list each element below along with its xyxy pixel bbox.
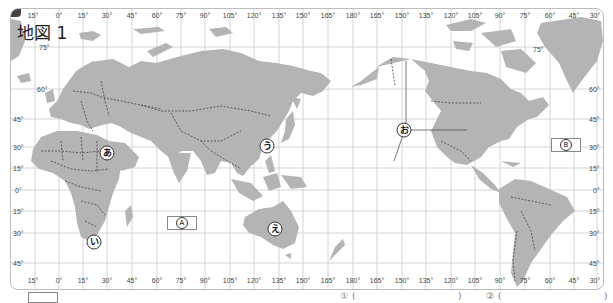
- lon-label: 30°: [590, 277, 601, 284]
- lat-label: 15°: [13, 165, 24, 172]
- marker-u: う: [260, 139, 275, 154]
- lon-label: 60°: [152, 12, 163, 19]
- mark-2: ②: [486, 291, 494, 302]
- lat-label: 60°: [37, 86, 48, 93]
- world-map: 地図 1 15° 0° 15° 30° 45° 60° 75° 90° 105°…: [10, 8, 604, 290]
- lon-label: 30°: [102, 12, 113, 19]
- lon-label: 60°: [152, 277, 163, 284]
- lat-label: 75°: [39, 44, 50, 51]
- lat-label: 75°: [533, 46, 544, 53]
- lon-label: 75°: [176, 277, 187, 284]
- lon-label: 0°: [56, 277, 63, 284]
- lon-label: 165°: [370, 12, 384, 19]
- lon-label: 90°: [200, 12, 211, 19]
- lon-label: 180°: [346, 277, 360, 284]
- ocean-box-a: A: [167, 216, 197, 230]
- ocean-box-b: B: [551, 138, 581, 152]
- lat-label: 45°: [13, 116, 24, 123]
- lon-label: 30°: [590, 12, 601, 19]
- lon-label: 135°: [419, 12, 433, 19]
- lon-label: 120°: [444, 277, 458, 284]
- lon-label: 60°: [545, 12, 556, 19]
- paren-open-2: (: [498, 291, 502, 302]
- lon-label: 105°: [223, 12, 237, 19]
- lat-label: 45°: [589, 260, 600, 267]
- paren-open-1: (: [352, 291, 356, 302]
- lon-label: 75°: [520, 277, 531, 284]
- lon-label: 105°: [468, 12, 482, 19]
- question-strip: ① ( ) ② ( ): [0, 291, 613, 302]
- lat-label: 30°: [589, 230, 600, 237]
- lon-label: 150°: [395, 12, 409, 19]
- ocean-label-b: B: [560, 139, 572, 151]
- lon-label: 165°: [370, 277, 384, 284]
- ocean-label-a: A: [176, 217, 188, 229]
- lon-label: 150°: [395, 277, 409, 284]
- lon-label: 15°: [28, 277, 39, 284]
- lon-label: 135°: [272, 277, 286, 284]
- lat-label: 30°: [589, 144, 600, 151]
- lon-label: 165°: [321, 277, 335, 284]
- lat-label: 45°: [589, 116, 600, 123]
- lat-label: 15°: [589, 165, 600, 172]
- lon-label: 45°: [127, 277, 138, 284]
- lon-label: 120°: [247, 12, 261, 19]
- lat-label: 0°: [593, 187, 600, 194]
- mark-1: ①: [340, 291, 348, 302]
- lon-label: 15°: [28, 12, 39, 19]
- lon-label: 90°: [495, 277, 506, 284]
- lon-label: 150°: [296, 12, 310, 19]
- lon-label: 75°: [520, 12, 531, 19]
- marker-o: お: [397, 123, 412, 138]
- lon-label: 135°: [419, 277, 433, 284]
- lon-label: 150°: [296, 277, 310, 284]
- lon-label: 30°: [102, 277, 113, 284]
- marker-e: え: [268, 222, 283, 237]
- lon-label: 75°: [176, 12, 187, 19]
- map-title: 地図 1: [17, 19, 67, 44]
- lon-label: 15°: [78, 12, 89, 19]
- lat-label: 15°: [13, 208, 24, 215]
- lat-label: 30°: [13, 230, 24, 237]
- lon-label: 45°: [569, 277, 580, 284]
- lat-label: 45°: [13, 260, 24, 267]
- lon-label: 15°: [78, 277, 89, 284]
- lon-label: 165°: [321, 12, 335, 19]
- lon-label: 120°: [444, 12, 458, 19]
- lon-label: 105°: [223, 277, 237, 284]
- lat-label: 15°: [589, 208, 600, 215]
- lon-label: 45°: [127, 12, 138, 19]
- lat-label: 0°: [15, 187, 22, 194]
- paren-close-2: ): [604, 291, 608, 302]
- lon-label: 45°: [569, 12, 580, 19]
- lat-label: 60°: [589, 86, 600, 93]
- lon-label: 0°: [56, 12, 63, 19]
- lon-label: 180°: [346, 12, 360, 19]
- lon-label: 60°: [545, 277, 556, 284]
- lat-label: 30°: [13, 144, 24, 151]
- marker-a: あ: [100, 146, 115, 161]
- lon-label: 105°: [468, 277, 482, 284]
- corner-tab: [11, 9, 21, 17]
- lon-label: 90°: [200, 277, 211, 284]
- lon-label: 135°: [272, 12, 286, 19]
- marker-i: い: [87, 235, 102, 250]
- lon-label: 90°: [495, 12, 506, 19]
- lon-label: 120°: [247, 277, 261, 284]
- answer-box: [28, 292, 58, 303]
- paren-close-1: ): [458, 291, 462, 302]
